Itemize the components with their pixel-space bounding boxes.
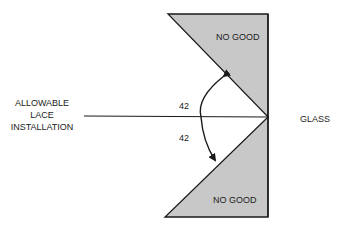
lace-line <box>84 116 268 117</box>
top-no-good-label: NO GOOD <box>216 32 260 42</box>
glass-label: GLASS <box>300 114 330 124</box>
lace-installation-angle-diagram: NO GOOD NO GOOD 42 42 GLASS ALLOWABLE LA… <box>0 0 342 232</box>
angle-lower-label: 42 <box>179 133 189 143</box>
bottom-no-good-label: NO GOOD <box>213 195 257 205</box>
installation-label: INSTALLATION <box>11 122 74 132</box>
angle-arc-arrow <box>200 76 224 160</box>
lace-label: LACE <box>30 110 54 120</box>
allowable-label: ALLOWABLE <box>15 98 69 108</box>
angle-upper-label: 42 <box>179 101 189 111</box>
